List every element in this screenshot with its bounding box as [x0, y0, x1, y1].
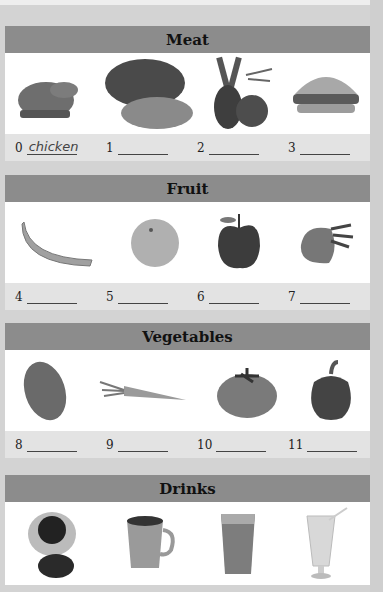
answer-item: 2 — [187, 141, 278, 155]
section-title: Drinks — [5, 475, 370, 502]
answer-blank[interactable]: chicken — [27, 142, 77, 155]
item-number: 7 — [288, 290, 296, 304]
answer-item: 5 — [96, 290, 187, 304]
answer-blank[interactable] — [27, 291, 77, 304]
picture-row — [5, 350, 370, 431]
answer-item: 9 — [96, 438, 187, 452]
juice-glass-image — [299, 506, 349, 582]
item-number: 10 — [197, 438, 212, 452]
item-number: 6 — [197, 290, 205, 304]
answer-item: 6 — [187, 290, 278, 304]
picture-row — [5, 502, 370, 585]
item-number: 8 — [15, 438, 23, 452]
answer-row: 0chicken 1 2 3 — [5, 134, 370, 161]
answer-blank[interactable] — [209, 291, 259, 304]
answer-blank[interactable] — [118, 291, 168, 304]
tea-mug-image — [121, 512, 177, 576]
answer-blank[interactable] — [118, 142, 168, 155]
top-strip — [0, 0, 383, 5]
beef-image — [101, 55, 196, 133]
section-vegetables: Vegetables 8 9 10 11 — [5, 323, 370, 458]
section-title: Fruit — [5, 175, 370, 202]
answer-blank[interactable] — [27, 439, 77, 452]
milkshake-glass-image — [218, 510, 258, 578]
answer-item: 3 — [278, 141, 369, 155]
lamb-chops-image — [206, 55, 276, 133]
answer-item: 8 — [5, 438, 96, 452]
pepper-image — [306, 360, 356, 422]
answer-blank[interactable] — [216, 439, 266, 452]
picture-row — [5, 202, 370, 283]
answer-item: 4 — [5, 290, 96, 304]
chicken-image — [10, 64, 90, 124]
section-title: Meat — [5, 26, 370, 53]
answer-blank[interactable] — [118, 439, 168, 452]
section-meat: Meat 0chicken 1 2 3 — [5, 26, 370, 161]
answer-row: 8 9 10 11 — [5, 431, 370, 458]
answer-item: 1 — [96, 141, 187, 155]
answer-blank[interactable] — [307, 439, 357, 452]
orange-image — [127, 218, 183, 268]
section-fruit: Fruit 4 5 6 7 — [5, 175, 370, 310]
item-number: 9 — [106, 438, 114, 452]
section-title: Vegetables — [5, 323, 370, 350]
answer-item: 0chicken — [5, 141, 96, 155]
item-number: 2 — [197, 141, 205, 155]
answer-item: 7 — [278, 290, 369, 304]
potato-image — [19, 359, 71, 423]
apple-image — [214, 214, 264, 272]
item-number: 1 — [106, 141, 114, 155]
item-number: 4 — [15, 290, 23, 304]
section-drinks: Drinks — [5, 475, 370, 585]
item-number: 5 — [106, 290, 114, 304]
page-edge — [370, 0, 383, 592]
tomato-image — [215, 364, 279, 418]
answer-item: 11 — [278, 438, 369, 452]
item-number: 3 — [288, 141, 296, 155]
answer-blank[interactable] — [300, 291, 350, 304]
answer-blank[interactable] — [209, 142, 259, 155]
answer-row: 4 5 6 7 — [5, 283, 370, 310]
item-number: 11 — [288, 438, 303, 452]
answer-text: chicken — [29, 139, 79, 154]
coffee-image — [26, 506, 80, 582]
banana-image — [20, 218, 96, 268]
burger-image — [287, 64, 365, 124]
item-number: 0 — [15, 141, 23, 155]
strawberry-image — [295, 219, 355, 267]
carrot-image — [98, 376, 188, 406]
answer-blank[interactable] — [300, 142, 350, 155]
answer-item: 10 — [187, 438, 278, 452]
picture-row — [5, 53, 370, 134]
